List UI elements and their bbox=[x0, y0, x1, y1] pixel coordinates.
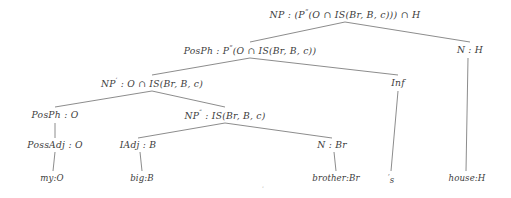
node-iadj: IAdj : B bbox=[120, 140, 157, 149]
edge-n-br-to-brother bbox=[334, 152, 336, 171]
leaf-big: big:B bbox=[130, 174, 153, 183]
edge-iadj-to-big bbox=[140, 152, 142, 171]
edge-root-to-n-h bbox=[345, 22, 470, 42]
node-np-root: NP : (P“(O ∩ IS(Br, B, c))) ∩ H bbox=[270, 9, 421, 20]
edge-root-to-posph-upper bbox=[250, 22, 345, 42]
node-possadj: PossAdj : O bbox=[27, 140, 82, 149]
edge-np-double-prime-to-n-br bbox=[225, 123, 332, 138]
stray-ink-mark: ʹ bbox=[262, 186, 264, 194]
node-inf: Inf bbox=[391, 78, 405, 87]
node-n-h: N : H bbox=[457, 45, 483, 54]
edge-posph-upper-to-np-prime bbox=[152, 58, 250, 75]
node-np-double-prime: NP″ : IS(Br, B, c) bbox=[184, 109, 265, 120]
edge-np-prime-to-np-double-prime bbox=[152, 91, 225, 107]
node-n-br: N : Br bbox=[317, 140, 347, 149]
edge-posph-upper-to-inf bbox=[250, 58, 398, 75]
edge-np-prime-to-posph-lower bbox=[55, 91, 152, 107]
node-np-prime: NP′ : O ∩ IS(Br, B, c) bbox=[101, 77, 203, 88]
tree-edge-layer bbox=[0, 0, 511, 198]
leaf-brother: brother:Br bbox=[312, 174, 359, 183]
edge-inf-to-possessive-s bbox=[391, 91, 398, 171]
syntactic-parse-tree-figure: NP : (P“(O ∩ IS(Br, B, c))) ∩ HPosPh : P… bbox=[0, 0, 511, 198]
leaf-my: my:O bbox=[40, 174, 63, 183]
leaf-possessive-s: ’s bbox=[388, 174, 395, 184]
node-posph-lower: PosPh : O bbox=[32, 110, 79, 119]
edge-possadj-to-my bbox=[53, 152, 55, 171]
edge-n-h-to-house bbox=[466, 58, 468, 171]
node-posph-upper: PosPh : P“(O ∩ IS(Br, B, c)) bbox=[184, 45, 316, 55]
edge-np-double-prime-to-iadj bbox=[138, 123, 225, 138]
leaf-house: house:H bbox=[449, 174, 486, 183]
